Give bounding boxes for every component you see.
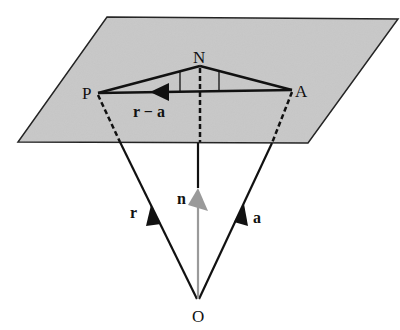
label-r-minus-a: r − a: [133, 103, 165, 120]
diagram-svg: N P A O r − a r n a: [0, 0, 400, 330]
vector-plane-diagram: N P A O r − a r n a: [0, 0, 400, 330]
label-p-point: P: [82, 84, 91, 103]
vectors-from-origin: [120, 142, 272, 299]
label-o-point: O: [192, 307, 204, 326]
plane: [18, 17, 398, 143]
arrowhead-n: [188, 188, 208, 211]
label-a-point: A: [295, 82, 308, 101]
label-vector-r: r: [130, 204, 137, 221]
label-vector-a: a: [253, 209, 261, 226]
label-n-point: N: [193, 48, 205, 67]
label-vector-n: n: [177, 190, 186, 207]
